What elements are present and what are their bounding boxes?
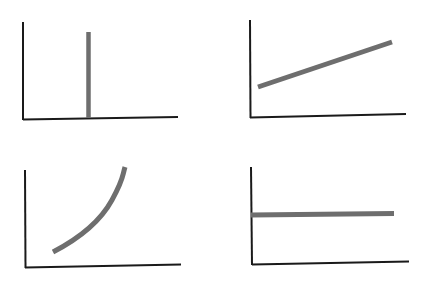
- x-axis: [250, 114, 406, 118]
- figure-2x2-graphs: Four small line graphs in a 2x2 grid wit…: [0, 0, 429, 285]
- y-axis: [250, 20, 251, 118]
- data-line-horizontal: [251, 214, 394, 216]
- x-axis: [252, 262, 409, 265]
- y-axis: [25, 170, 26, 268]
- panel-bottom-right: [251, 167, 409, 265]
- data-line-sloped: [258, 42, 392, 87]
- panel-top-left: [23, 22, 178, 120]
- x-axis: [23, 117, 178, 120]
- panel-top-right: [250, 20, 406, 118]
- data-curve-exponential: [53, 167, 125, 252]
- panel-bottom-left: [25, 167, 181, 268]
- x-axis: [25, 265, 181, 268]
